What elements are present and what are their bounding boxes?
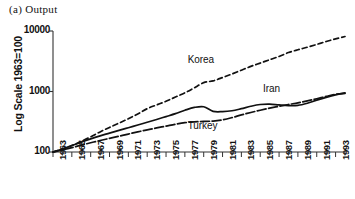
plot-area	[0, 0, 355, 199]
output-chart: (a) Output Log Scale 1963=100 1001000100…	[0, 0, 355, 199]
series-label-turkey: Turkey	[188, 120, 218, 131]
series-label-iran: Iran	[263, 83, 280, 94]
series-label-korea: Korea	[188, 54, 214, 65]
